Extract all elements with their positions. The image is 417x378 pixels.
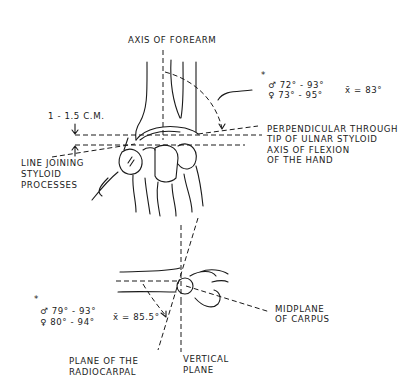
ulna-lines bbox=[171, 60, 183, 118]
metacarpal-4 bbox=[184, 166, 203, 212]
leader-line-top bbox=[218, 90, 252, 100]
capitate bbox=[155, 145, 178, 182]
thumb bbox=[92, 172, 118, 200]
styloid-line-left bbox=[52, 144, 135, 157]
radius-left-edge bbox=[136, 62, 147, 140]
wrist-anatomy-diagram: AXIS OF FOREARM 1 - 1.5 C.M. LINE JOININ… bbox=[0, 0, 417, 378]
radiocarpal-plane-line bbox=[158, 218, 198, 350]
arc-arrow-side bbox=[161, 311, 166, 317]
hand-bones bbox=[190, 270, 228, 307]
hamate bbox=[178, 144, 196, 169]
hatch bbox=[124, 138, 134, 166]
scaphoid bbox=[119, 149, 142, 174]
arrow-down bbox=[72, 124, 78, 134]
forearm-top bbox=[120, 268, 180, 272]
radius-cap bbox=[136, 127, 198, 141]
metacarpal-3 bbox=[157, 182, 176, 216]
distance-label: 1 - 1.5 C.M. bbox=[48, 111, 105, 121]
metacarpal-2 bbox=[133, 175, 150, 214]
arrow-up bbox=[72, 146, 78, 156]
carpal-head bbox=[177, 278, 193, 294]
axis-of-forearm-label: AXIS OF FOREARM bbox=[128, 35, 216, 45]
carpus-midplane bbox=[186, 286, 270, 312]
styloid-line-right bbox=[198, 126, 258, 134]
radius-cap-inner bbox=[140, 131, 180, 140]
lunate bbox=[143, 148, 155, 150]
